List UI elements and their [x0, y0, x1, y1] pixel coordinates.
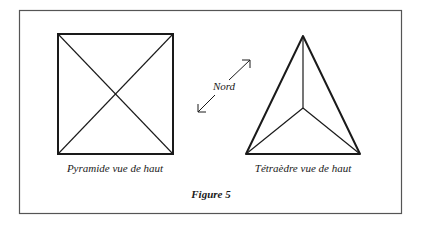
- south-arrow-lower-shaft: [198, 95, 215, 112]
- figure-caption: Figure 5: [191, 188, 230, 200]
- tetrahedron-caption: Tétraèdre vue de haut: [255, 162, 351, 174]
- tetrahedron-edge-right: [303, 108, 360, 154]
- pyramid-top-view: [58, 34, 173, 154]
- tetrahedron-edge-left: [246, 108, 303, 154]
- figure-5: Pyramide vue de haut Nord Tétraèdre vue …: [0, 0, 421, 228]
- north-label: Nord: [213, 80, 235, 92]
- tetrahedron-top-view: [246, 36, 360, 154]
- pyramid-caption: Pyramide vue de haut: [67, 162, 163, 174]
- north-arrow-upper-shaft: [229, 60, 250, 80]
- figure-frame: [20, 11, 402, 214]
